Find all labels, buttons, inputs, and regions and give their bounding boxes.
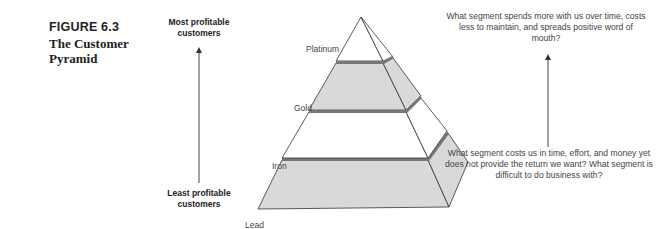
tier-label-gold: Gold — [294, 103, 312, 113]
question-least-profitable: What segment costs us in time, effort, a… — [444, 148, 654, 181]
tier-label-iron: Iron — [272, 161, 287, 171]
tier-label-lead: Lead — [245, 220, 264, 229]
question-most-profitable: What segment spends more with us over ti… — [446, 11, 646, 44]
tier-label-platinum: Platinum — [306, 44, 339, 54]
tier-platinum — [336, 17, 394, 64]
tier-gold — [309, 58, 422, 113]
